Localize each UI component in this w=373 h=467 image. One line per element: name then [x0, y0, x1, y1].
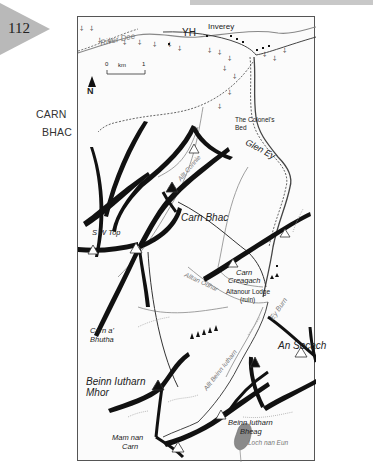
label-carn-creagach-2: Creagach [228, 277, 261, 285]
scale-end: 1 [142, 61, 145, 67]
north-label: N [87, 87, 94, 96]
label-mam-nan-carn-1: Mam nan [112, 434, 143, 442]
label-an-socach: An Socach [278, 341, 326, 352]
page-number: 112 [8, 20, 30, 37]
scale-start: 0 [105, 61, 108, 67]
route-map: ⸸⸸ ⸸⸸⸸⸸⸸ ⸸⸸⸸⸸⸸ ⸸⸸⸸⸸⸸⸸⸸ [77, 16, 315, 461]
svg-text:⸸: ⸸ [218, 103, 221, 111]
svg-text:⸸: ⸸ [228, 89, 231, 97]
label-inverey: Inverey [208, 23, 234, 31]
label-beinn-iutharn-bheag-2: Bheag [240, 428, 262, 436]
svg-text:⸸: ⸸ [178, 45, 181, 53]
label-loch-nan-eun: Loch nan Eun [248, 440, 288, 447]
label-beinn-iutharn-mhor-2: Mhor [86, 388, 109, 399]
label-carn-a-bhutha-2: Bhutha [90, 336, 114, 344]
label-yh: YH [182, 28, 196, 39]
svg-text:⸸: ⸸ [263, 51, 266, 59]
chapter-title-line2: BHAC [42, 126, 72, 138]
scale-unit: km [118, 62, 126, 68]
label-sw-top: S W Top [92, 229, 120, 237]
svg-text:⸸: ⸸ [153, 41, 156, 49]
label-carn-bhac: Carn Bhac [181, 213, 228, 224]
label-colonels-bed-1: The Colonel's [235, 117, 275, 124]
svg-text:⸸: ⸸ [218, 49, 221, 57]
svg-text:⸸: ⸸ [233, 73, 236, 81]
label-altanour-lodge-1: Altanour Lodge [226, 289, 270, 296]
label-beinn-iutharn-mhor-1: Beinn Iutharn [86, 377, 146, 388]
svg-text:⸸: ⸸ [208, 47, 211, 55]
label-altanour-lodge-2: (ruin) [240, 297, 255, 304]
svg-text:⸸: ⸸ [283, 47, 286, 55]
label-beinn-iutharn-bheag-1: Beinn Iutharn [228, 419, 273, 427]
chapter-title-line1: CARN [36, 108, 67, 120]
svg-text:⸸: ⸸ [223, 65, 226, 73]
svg-text:⸸: ⸸ [90, 25, 93, 33]
svg-text:⸸: ⸸ [138, 39, 141, 47]
map-drawing: ⸸⸸ ⸸⸸⸸⸸⸸ ⸸⸸⸸⸸⸸ ⸸⸸⸸⸸⸸⸸⸸ [78, 17, 316, 462]
header-bar [190, 0, 373, 5]
svg-text:⸸: ⸸ [228, 55, 231, 63]
label-colonels-bed-2: Bed [235, 125, 247, 132]
label-carn-a-bhutha-1: Carn a' [90, 327, 114, 335]
label-mam-nan-carn-2: Carn [122, 443, 138, 451]
svg-text:⸸: ⸸ [80, 25, 83, 33]
svg-text:⸸: ⸸ [273, 55, 276, 63]
